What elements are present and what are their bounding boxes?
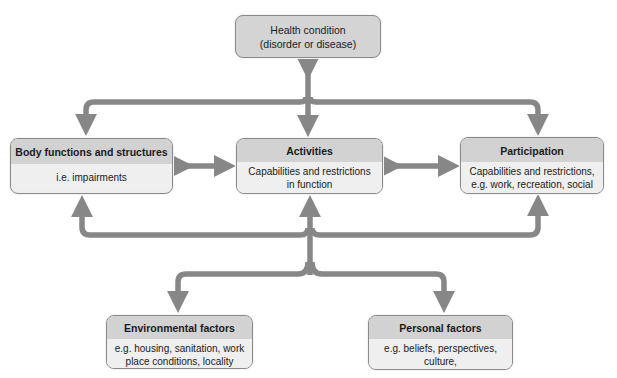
personal-factors-title: Personal factors: [369, 316, 512, 339]
body-functions-title: Body functions and structures: [11, 139, 172, 164]
participation-line1: Capabilities and restrictions,: [465, 165, 599, 178]
personal-line1: e.g. beliefs, perspectives, culture,: [373, 342, 508, 368]
arrow-hub-participation: [312, 204, 538, 235]
health-condition-title: Health condition: [270, 23, 345, 37]
environmental-factors-box: Environmental factors e.g. housing, sani…: [106, 315, 253, 369]
arrow-hub-environmental: [178, 262, 308, 303]
personal-factors-box: Personal factors e.g. beliefs, perspecti…: [368, 315, 513, 370]
environmental-line1: e.g. housing, sanitation, work: [111, 342, 248, 355]
arrow-health-participation: [310, 97, 538, 126]
environmental-factors-title: Environmental factors: [107, 316, 252, 339]
body-functions-box: Body functions and structures i.e. impai…: [10, 138, 173, 194]
activities-line2: in function: [241, 178, 378, 191]
personal-line2: socio-economic status, education: [373, 368, 508, 370]
participation-line2: e.g. work, recreation, social: [465, 178, 599, 191]
activities-line1: Capabilities and restrictions: [241, 165, 378, 178]
arrow-hub-body: [82, 205, 308, 235]
body-functions-text: i.e. impairments: [11, 164, 172, 188]
arrow-hub-personal: [312, 262, 444, 303]
health-condition-subtitle: (disorder or disease): [260, 37, 356, 51]
arrow-health-body: [86, 97, 306, 126]
activities-box: Activities Capabilities and restrictions…: [236, 138, 383, 194]
environmental-line2: place conditions, locality: [111, 355, 248, 368]
participation-title: Participation: [461, 138, 603, 162]
participation-box: Participation Capabilities and restricti…: [460, 137, 604, 194]
health-condition-box: Health condition (disorder or disease): [235, 15, 381, 58]
activities-title: Activities: [237, 139, 382, 162]
